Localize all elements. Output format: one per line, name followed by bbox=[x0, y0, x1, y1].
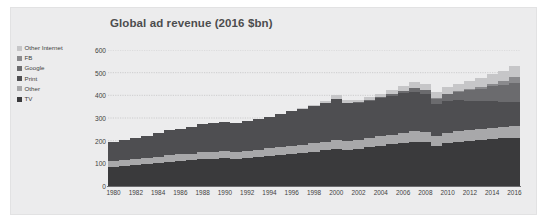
x-axis-tick-label: 2006 bbox=[396, 189, 410, 196]
chart-title: Global ad revenue (2016 $bn) bbox=[110, 17, 273, 29]
y-axis-tick-label: 500 bbox=[80, 69, 106, 76]
legend-swatch-icon bbox=[17, 76, 22, 81]
x-axis: 1980198219841986198819901992199419961998… bbox=[108, 189, 520, 201]
x-axis-tick-label: 1984 bbox=[151, 189, 165, 196]
x-axis-tick-label: 2014 bbox=[485, 189, 499, 196]
y-axis-tick-label: 400 bbox=[80, 92, 106, 99]
legend-swatch-icon bbox=[17, 97, 22, 102]
x-axis-tick-label: 1990 bbox=[218, 189, 232, 196]
y-axis-tick-label: 200 bbox=[80, 137, 106, 144]
x-axis-tick-label: 1998 bbox=[307, 189, 321, 196]
x-axis-tick-label: 1992 bbox=[240, 189, 254, 196]
legend-item-label: Other bbox=[25, 86, 40, 92]
legend-swatch-icon bbox=[17, 66, 22, 71]
legend-item-label: TV bbox=[25, 96, 33, 102]
stacked-area-svg bbox=[108, 50, 520, 186]
y-axis-tick-label: 100 bbox=[80, 160, 106, 167]
y-axis-tick-label: 300 bbox=[80, 115, 106, 122]
x-axis-tick-label: 1996 bbox=[285, 189, 299, 196]
chart-screenshot: Global ad revenue (2016 $bn) Other Inter… bbox=[0, 0, 541, 219]
x-axis-tick-label: 2012 bbox=[463, 189, 477, 196]
x-axis-tick-label: 1988 bbox=[196, 189, 210, 196]
y-axis-tick-label: 0 bbox=[80, 183, 106, 190]
legend-item-label: FB bbox=[25, 55, 33, 61]
x-axis-line bbox=[107, 186, 521, 187]
x-axis-tick-label: 2004 bbox=[374, 189, 388, 196]
x-axis-tick-label: 1986 bbox=[173, 189, 187, 196]
x-axis-tick-label: 2002 bbox=[351, 189, 365, 196]
legend-swatch-icon bbox=[17, 86, 22, 91]
x-axis-tick-label: 2000 bbox=[329, 189, 343, 196]
x-axis-tick-label: 2010 bbox=[441, 189, 455, 196]
x-axis-tick-label: 2008 bbox=[418, 189, 432, 196]
y-axis-tick-label: 600 bbox=[80, 47, 106, 54]
x-axis-tick-label: 2016 bbox=[507, 189, 521, 196]
x-axis-tick-label: 1982 bbox=[129, 189, 143, 196]
legend-item-label: Print bbox=[25, 76, 38, 82]
legend-swatch-icon bbox=[17, 46, 22, 51]
x-axis-tick-label: 1980 bbox=[106, 189, 120, 196]
y-axis: 0100200300400500600 bbox=[80, 50, 106, 186]
legend-swatch-icon bbox=[17, 56, 22, 61]
legend-item-label: Google bbox=[25, 65, 45, 71]
legend-item-label: Other Internet bbox=[25, 45, 63, 51]
plot-area bbox=[108, 50, 520, 186]
x-axis-tick-label: 1994 bbox=[262, 189, 276, 196]
